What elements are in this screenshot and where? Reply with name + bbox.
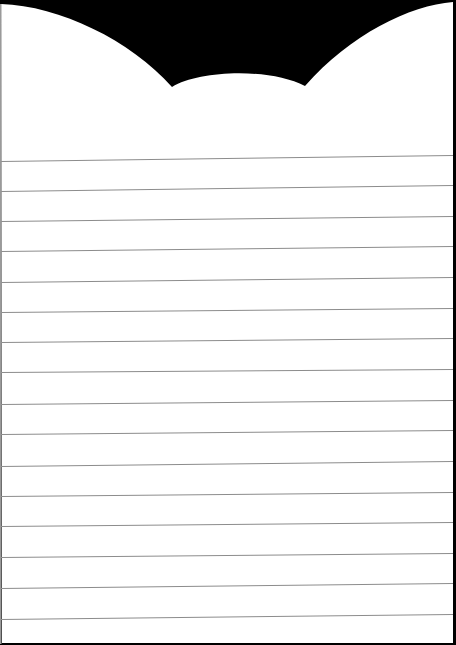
notepad-sheet-graphic — [0, 0, 456, 645]
paper-with-scalloped-top — [1, 2, 453, 643]
notepad-sheet — [0, 0, 456, 645]
left-edge-shadow — [0, 4, 2, 644]
